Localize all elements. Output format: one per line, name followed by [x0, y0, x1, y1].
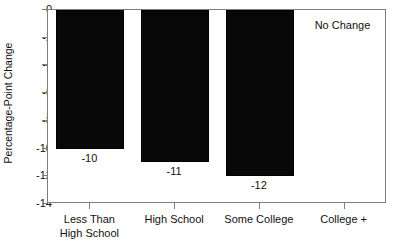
x-axis-category-label: College + [320, 212, 367, 226]
bar-value-label: -10 [81, 152, 97, 164]
x-axis-tick-mark [89, 203, 90, 209]
y-axis-title-text: Percentage-Point Change [2, 42, 14, 163]
x-axis-tick-mark [259, 203, 260, 209]
y-axis-title: Percentage-Point Change [0, 0, 16, 205]
x-axis-category-label: Some College [224, 212, 293, 226]
plot-area: No Change [47, 9, 386, 203]
x-axis-category-label: Less Than High School [60, 212, 119, 240]
chart-screenshot: Percentage-Point Change 0-2-4-6-8-10-12-… [0, 0, 396, 247]
y-axis-tick-mark [42, 203, 48, 204]
bar-value-label: -12 [251, 179, 267, 191]
bar [226, 10, 294, 176]
bar [141, 10, 209, 162]
no-change-annotation: No Change [315, 19, 371, 31]
x-axis-category-label: High School [144, 212, 203, 226]
x-axis-tick-mark [344, 203, 345, 209]
bar [56, 10, 124, 149]
bar-value-label: -11 [167, 165, 182, 177]
x-axis-tick-mark [174, 203, 175, 209]
